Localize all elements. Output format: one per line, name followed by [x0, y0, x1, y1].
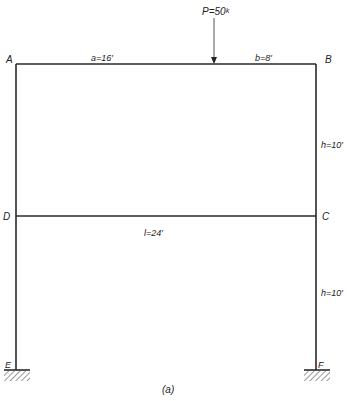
dimension-h-lower: h=10′ [321, 288, 343, 298]
portal-frame-diagram: A B C D E F P=50ᵏ a=16′ b=8′ l=24′ h=10′… [0, 0, 348, 401]
dimension-a: a=16′ [91, 53, 113, 63]
node-label-f: F [318, 360, 324, 370]
node-label-e: E [5, 360, 12, 370]
fixed-support-e [4, 370, 30, 381]
figure-caption: (a) [162, 384, 174, 395]
dimension-l: l=24′ [144, 228, 163, 238]
fixed-support-f [304, 370, 330, 381]
node-label-c: C [322, 211, 330, 222]
dimension-h-upper: h=10′ [321, 140, 343, 150]
node-label-d: D [3, 211, 10, 222]
dimension-b: b=8′ [255, 53, 272, 63]
point-load-arrow-icon [211, 18, 217, 64]
node-label-b: B [325, 54, 332, 65]
node-label-a: A [5, 54, 13, 65]
load-label: P=50ᵏ [202, 6, 230, 17]
